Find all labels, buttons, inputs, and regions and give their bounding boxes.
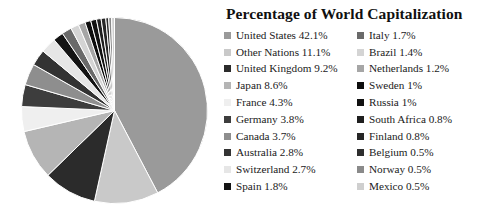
legend-color-swatch-icon [224, 32, 231, 39]
legend-color-swatch-icon [357, 82, 364, 89]
legend-item-label: Brazil 1.4% [369, 46, 422, 59]
legend-item[interactable]: France 4.3% [224, 94, 357, 111]
legend-color-swatch-icon [224, 183, 231, 190]
legend-color-swatch-icon [357, 99, 364, 106]
legend-item[interactable]: Japan 8.6% [224, 77, 357, 94]
legend-item-label: South Africa 0.8% [369, 113, 452, 126]
legend-column-right: Italy 1.7%Brazil 1.4%Netherlands 1.2%Swe… [357, 27, 482, 195]
legend-color-swatch-icon [357, 149, 364, 156]
legend-color-swatch-icon [357, 166, 364, 173]
legend-color-swatch-icon [224, 149, 231, 156]
legend-item[interactable]: Switzerland 2.7% [224, 161, 357, 178]
legend-item-label: Mexico 0.5% [369, 180, 429, 193]
legend-item[interactable]: Russia 1% [357, 94, 482, 111]
legend-color-swatch-icon [224, 116, 231, 123]
legend-panel: Percentage of World Capitalization Unite… [224, 5, 482, 210]
legend-item[interactable]: Finland 0.8% [357, 128, 482, 145]
legend-item[interactable]: Netherlands 1.2% [357, 61, 482, 78]
legend-item-label: United States 42.1% [236, 29, 328, 42]
legend-item-label: Germany 3.8% [236, 113, 304, 126]
legend-color-swatch-icon [224, 166, 231, 173]
legend-color-swatch-icon [224, 65, 231, 72]
page-title: Percentage of World Capitalization [226, 5, 482, 23]
legend-color-swatch-icon [357, 133, 364, 140]
legend-item[interactable]: Spain 1.8% [224, 178, 357, 195]
pie-chart-figure: Percentage of World Capitalization Unite… [0, 0, 485, 214]
legend-color-swatch-icon [357, 65, 364, 72]
legend-item-label: United Kingdom 9.2% [236, 62, 338, 75]
legend-item-label: Japan 8.6% [236, 79, 288, 92]
legend-item[interactable]: Italy 1.7% [357, 27, 482, 44]
legend-item-label: Canada 3.7% [236, 130, 296, 143]
legend-item-label: Italy 1.7% [369, 29, 416, 42]
pie-svg [21, 17, 208, 204]
legend-item[interactable]: Germany 3.8% [224, 111, 357, 128]
legend-color-swatch-icon [357, 32, 364, 39]
pie-chart-graphic [21, 17, 208, 204]
legend-item[interactable]: Sweden 1% [357, 77, 482, 94]
legend-item-label: France 4.3% [236, 96, 293, 109]
legend-item-label: Belgium 0.5% [369, 146, 434, 159]
legend-item[interactable]: Norway 0.5% [357, 161, 482, 178]
legend-columns: United States 42.1%Other Nations 11.1%Un… [224, 27, 482, 195]
legend-color-swatch-icon [224, 99, 231, 106]
legend-item-label: Sweden 1% [369, 79, 422, 92]
legend-item-label: Finland 0.8% [369, 130, 429, 143]
legend-item[interactable]: United States 42.1% [224, 27, 357, 44]
legend-item-label: Netherlands 1.2% [369, 62, 449, 75]
legend-color-swatch-icon [357, 116, 364, 123]
legend-color-swatch-icon [224, 133, 231, 140]
legend-item-label: Other Nations 11.1% [236, 46, 330, 59]
legend-column-left: United States 42.1%Other Nations 11.1%Un… [224, 27, 357, 195]
legend-color-swatch-icon [357, 183, 364, 190]
legend-color-swatch-icon [224, 82, 231, 89]
legend-item-label: Russia 1% [369, 96, 417, 109]
legend-item-label: Switzerland 2.7% [236, 163, 316, 176]
legend-item-label: Spain 1.8% [236, 180, 288, 193]
legend-item[interactable]: Brazil 1.4% [357, 44, 482, 61]
legend-item[interactable]: Other Nations 11.1% [224, 44, 357, 61]
legend-color-swatch-icon [224, 49, 231, 56]
legend-item[interactable]: South Africa 0.8% [357, 111, 482, 128]
legend-item-label: Norway 0.5% [369, 163, 431, 176]
legend-color-swatch-icon [357, 49, 364, 56]
legend-item[interactable]: United Kingdom 9.2% [224, 61, 357, 78]
legend-item[interactable]: Australia 2.8% [224, 145, 357, 162]
legend-item[interactable]: Canada 3.7% [224, 128, 357, 145]
legend-item[interactable]: Belgium 0.5% [357, 145, 482, 162]
legend-item-label: Australia 2.8% [236, 146, 303, 159]
legend-item[interactable]: Mexico 0.5% [357, 178, 482, 195]
